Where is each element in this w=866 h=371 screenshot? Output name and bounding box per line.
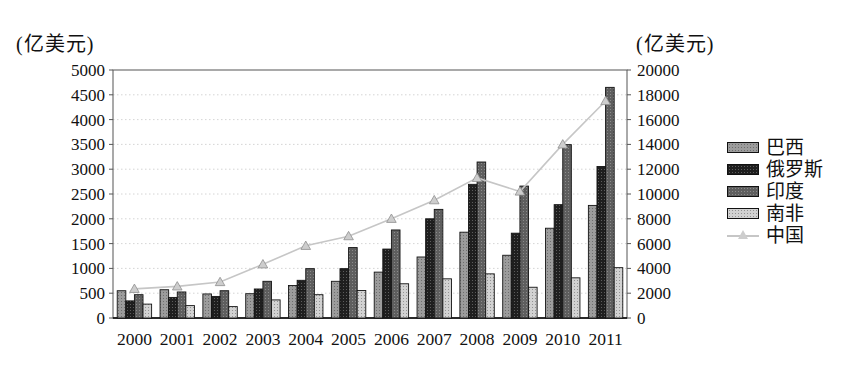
svg-text:8000: 8000 (637, 210, 671, 229)
russia-bar-swatch-icon (727, 164, 759, 175)
brics-chart-figure: (亿美元) (亿美元) 0500100015002000250030003500… (0, 0, 866, 371)
legend-label-brazil: 巴西 (766, 138, 804, 157)
svg-text:2002: 2002 (203, 329, 238, 349)
legend-item-brazil: 巴西 (727, 138, 823, 156)
legend-item-south-africa: 南非 (727, 204, 823, 222)
svg-text:12000: 12000 (637, 160, 680, 179)
svg-text:4000: 4000 (637, 259, 671, 278)
svg-text:2009: 2009 (502, 329, 537, 349)
svg-text:4500: 4500 (71, 86, 105, 105)
triangle-marker-icon (738, 230, 748, 239)
legend-item-russia: 俄罗斯 (727, 160, 823, 178)
brazil-bar-swatch-icon (727, 142, 759, 153)
svg-text:0: 0 (637, 309, 646, 328)
svg-text:1500: 1500 (71, 235, 105, 254)
svg-text:3000: 3000 (71, 160, 105, 179)
svg-text:2008: 2008 (460, 329, 495, 349)
svg-text:14000: 14000 (637, 135, 680, 154)
svg-text:18000: 18000 (637, 86, 680, 105)
svg-text:2500: 2500 (71, 185, 105, 204)
svg-text:2004: 2004 (288, 329, 323, 349)
legend-label-india: 印度 (766, 182, 804, 201)
svg-text:0: 0 (97, 309, 106, 328)
legend-label-south-africa: 南非 (766, 204, 804, 223)
legend-item-china: 中国 (727, 226, 823, 244)
svg-text:5000: 5000 (71, 61, 105, 80)
svg-text:2011: 2011 (588, 329, 622, 349)
legend-label-china: 中国 (766, 226, 804, 245)
svg-text:2003: 2003 (245, 329, 280, 349)
china-line-swatch-icon (727, 229, 759, 241)
legend-item-india: 印度 (727, 182, 823, 200)
svg-text:4000: 4000 (71, 111, 105, 130)
svg-text:2007: 2007 (417, 329, 452, 349)
svg-text:6000: 6000 (637, 235, 671, 254)
svg-text:2010: 2010 (545, 329, 580, 349)
india-bar-swatch-icon (727, 186, 759, 197)
svg-text:16000: 16000 (637, 111, 680, 130)
svg-text:10000: 10000 (637, 185, 680, 204)
svg-text:2000: 2000 (117, 329, 152, 349)
svg-text:3500: 3500 (71, 135, 105, 154)
svg-text:2000: 2000 (637, 284, 671, 303)
legend-label-russia: 俄罗斯 (766, 160, 823, 179)
svg-text:2005: 2005 (331, 329, 366, 349)
legend: 巴西 俄罗斯 印度 南非 中国 (727, 138, 823, 244)
svg-text:2000: 2000 (71, 210, 105, 229)
svg-text:20000: 20000 (637, 61, 680, 80)
svg-text:1000: 1000 (71, 259, 105, 278)
south-africa-bar-swatch-icon (727, 208, 759, 219)
svg-text:2006: 2006 (374, 329, 409, 349)
svg-text:500: 500 (80, 284, 106, 303)
svg-text:2001: 2001 (160, 329, 195, 349)
